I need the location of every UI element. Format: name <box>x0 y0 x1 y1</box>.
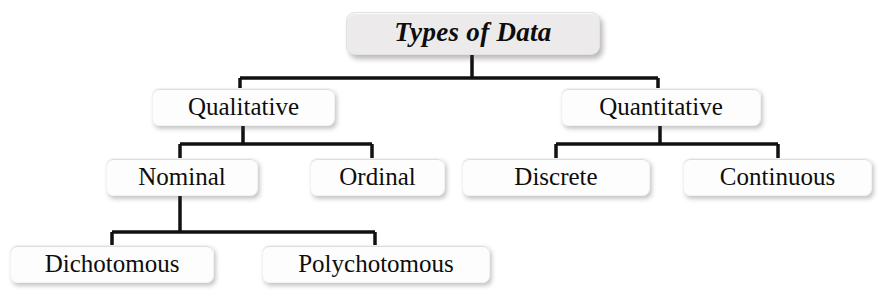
node-label-quantitative: Quantitative <box>599 94 723 121</box>
node-dichotomous[interactable]: Dichotomous <box>10 245 214 283</box>
node-qualitative[interactable]: Qualitative <box>152 88 335 126</box>
node-label-discrete: Discrete <box>514 164 597 191</box>
node-label-continuous: Continuous <box>720 164 835 191</box>
node-polychotomous[interactable]: Polychotomous <box>262 245 490 283</box>
data-types-diagram: Types of Data Qualitative Quantitative N… <box>0 0 885 305</box>
node-ordinal[interactable]: Ordinal <box>310 158 445 196</box>
node-label-qualitative: Qualitative <box>188 94 299 121</box>
node-label-polychotomous: Polychotomous <box>298 251 454 278</box>
node-label-dichotomous: Dichotomous <box>45 251 180 278</box>
node-label-ordinal: Ordinal <box>339 164 415 191</box>
node-discrete[interactable]: Discrete <box>462 158 650 196</box>
node-quantitative[interactable]: Quantitative <box>561 88 761 126</box>
node-continuous[interactable]: Continuous <box>683 158 872 196</box>
node-label-types-of-data: Types of Data <box>394 19 551 48</box>
node-types-of-data[interactable]: Types of Data <box>346 12 600 55</box>
node-nominal[interactable]: Nominal <box>106 158 258 196</box>
node-label-nominal: Nominal <box>138 164 226 191</box>
